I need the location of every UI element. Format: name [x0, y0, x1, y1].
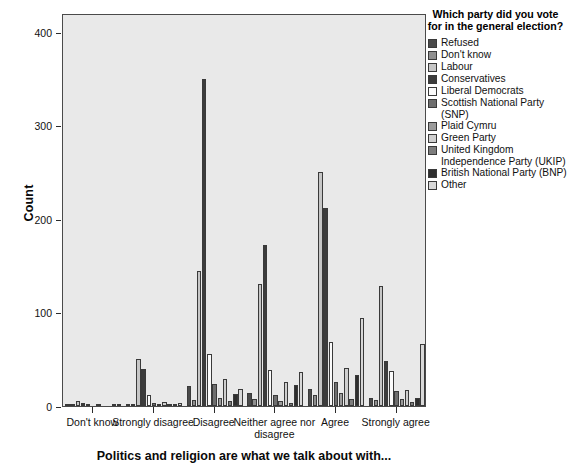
legend-swatch-icon [428, 75, 437, 84]
bar [405, 390, 409, 406]
legend-swatch-icon [428, 181, 437, 190]
bar [410, 402, 414, 406]
bar [86, 404, 90, 406]
bar [197, 271, 201, 406]
bar [218, 398, 222, 406]
bar [223, 379, 227, 406]
plot-area [62, 14, 426, 407]
x-axis-title: Politics and religion are what we talk a… [62, 449, 426, 463]
bar [400, 399, 404, 406]
legend-item[interactable]: Plaid Cymru [428, 120, 569, 132]
bar [131, 404, 135, 406]
bar [273, 395, 277, 406]
y-tick-label: 300 [18, 120, 52, 132]
legend-item-label: British National Party (BNP) [441, 167, 567, 178]
bar-group [124, 15, 185, 406]
legend-item[interactable]: United Kingdom Independence Party (UKIP) [428, 144, 569, 167]
legend-item[interactable]: Green Party [428, 132, 569, 144]
legend-swatch-icon [428, 169, 437, 178]
bar [349, 399, 353, 406]
bar [252, 399, 256, 406]
bar [81, 403, 85, 406]
legend: Which party did you vote for in the gene… [428, 8, 569, 191]
bar [173, 404, 177, 406]
bar [112, 404, 116, 406]
bar-group [184, 15, 245, 406]
bar [212, 384, 216, 406]
bar [308, 389, 312, 406]
bar-group [366, 15, 426, 406]
bar [323, 208, 327, 406]
legend-item-label: Scottish National Party (SNP) [441, 97, 569, 120]
bar [278, 401, 282, 406]
x-tick-mark [396, 407, 397, 413]
bar [369, 398, 373, 406]
y-axis-title: Count [22, 158, 36, 248]
bar [374, 400, 378, 406]
bar [207, 354, 211, 406]
bar [344, 368, 348, 406]
legend-item-label: Refused [441, 37, 479, 48]
bar [76, 401, 80, 406]
bar [329, 342, 333, 406]
bar [96, 404, 100, 406]
bar [420, 344, 424, 406]
bar [284, 382, 288, 406]
bar [247, 393, 251, 406]
legend-item-label: United Kingdom Independence Party (UKIP) [441, 144, 569, 167]
x-tick-label: Strongly agree [354, 417, 438, 429]
legend-item-label: Green Party [441, 132, 496, 143]
bar [263, 245, 267, 406]
bar [384, 361, 388, 406]
legend-item[interactable]: Other [428, 179, 569, 191]
x-tick-mark [214, 407, 215, 413]
bar [157, 404, 161, 406]
legend-swatch-icon [428, 122, 437, 131]
legend-item-label: Conservatives [441, 73, 506, 84]
bar [258, 284, 262, 406]
y-tick-mark [56, 126, 61, 127]
bar [313, 395, 317, 406]
x-tick-mark [92, 407, 93, 413]
bar [167, 404, 171, 406]
x-tick-mark [153, 407, 154, 413]
bar [389, 371, 393, 406]
legend-swatch-icon [428, 134, 437, 143]
bar [294, 385, 298, 406]
bar-group [63, 15, 124, 406]
bar [318, 172, 322, 406]
bar [117, 404, 121, 406]
bar [394, 391, 398, 406]
bar-group [306, 15, 367, 406]
bar [162, 402, 166, 406]
legend-item[interactable]: Don't know [428, 49, 569, 61]
bar [334, 382, 338, 406]
legend-swatch-icon [428, 146, 437, 155]
legend-items: RefusedDon't knowLabourConservativesLibe… [428, 37, 569, 191]
legend-item-label: Other [441, 179, 466, 190]
y-tick-mark [56, 220, 61, 221]
bar [192, 400, 196, 406]
legend-item[interactable]: Conservatives [428, 73, 569, 85]
bar [238, 389, 242, 406]
legend-item[interactable]: Labour [428, 61, 569, 73]
x-tick-mark [335, 407, 336, 413]
legend-item[interactable]: Scottish National Party (SNP) [428, 97, 569, 120]
x-tick-mark [274, 407, 275, 413]
bar [415, 398, 419, 406]
bar [355, 375, 359, 406]
y-tick-mark [56, 313, 61, 314]
legend-item[interactable]: Refused [428, 37, 569, 49]
bar [178, 403, 182, 406]
bar [289, 403, 293, 406]
legend-item[interactable]: British National Party (BNP) [428, 167, 569, 179]
legend-item-label: Don't know [441, 49, 491, 60]
bar [187, 386, 191, 406]
y-tick-label: 100 [18, 307, 52, 319]
bar [339, 393, 343, 406]
legend-swatch-icon [428, 51, 437, 60]
legend-item-label: Liberal Democrats [441, 85, 524, 96]
legend-item[interactable]: Liberal Democrats [428, 85, 569, 97]
bar [268, 370, 272, 406]
